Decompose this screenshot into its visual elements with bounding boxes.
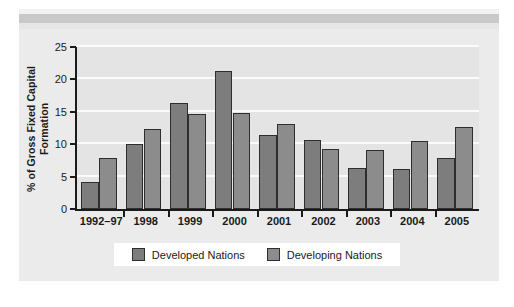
bar-developing-2001 — [277, 124, 295, 209]
bar-developed-2000 — [215, 71, 233, 209]
gridline — [77, 77, 479, 79]
bar-developing-1999 — [188, 114, 206, 209]
bar-developing-2000 — [233, 113, 251, 209]
y-axis-title: % of Gross Fixed Capital Formation — [26, 47, 50, 211]
gridline — [77, 110, 479, 112]
bar-developing-2002 — [322, 149, 340, 209]
x-axis-label: 2001 — [267, 215, 291, 227]
bar-developing-2003 — [366, 150, 384, 209]
legend-label: Developed Nations — [152, 249, 245, 261]
y-tick-label: 25 — [55, 41, 67, 53]
y-axis-title-text: % of Gross Fixed Capital Formation — [25, 47, 51, 211]
bar-developed-2004 — [393, 169, 411, 209]
scan-artifact-band — [19, 14, 499, 23]
bar-developed-2003 — [348, 168, 366, 209]
y-axis-line — [75, 47, 77, 211]
bar-developed-2001 — [259, 135, 277, 209]
y-tick-label: 0 — [61, 203, 67, 215]
bar-developed-199297 — [81, 182, 99, 209]
bar-developed-1998 — [126, 144, 144, 209]
bar-developed-2002 — [304, 140, 322, 209]
legend-label: Developing Nations — [287, 249, 382, 261]
bar-developed-1999 — [170, 103, 188, 209]
x-axis-label: 2004 — [400, 215, 424, 227]
legend-item: Developed Nations — [132, 248, 245, 261]
bar-developing-2005 — [455, 127, 473, 209]
bar-developing-2004 — [411, 141, 429, 209]
y-tick-label: 15 — [55, 106, 67, 118]
x-axis-label: 1998 — [133, 215, 157, 227]
y-tick-label: 5 — [61, 171, 67, 183]
x-axis-label: 2003 — [356, 215, 380, 227]
bar-developing-199297 — [99, 158, 117, 209]
plot-area: 0510152025 — [75, 47, 479, 211]
x-axis-label: 2000 — [222, 215, 246, 227]
bar-developing-1998 — [144, 129, 162, 209]
x-axis-line — [75, 209, 479, 211]
x-axis-label: 1999 — [178, 215, 202, 227]
x-axis-label: 1992–97 — [80, 215, 123, 227]
x-axis-label: 2005 — [445, 215, 469, 227]
legend-item: Developing Nations — [267, 248, 382, 261]
gridline — [77, 45, 479, 47]
chart-page: % of Gross Fixed Capital Formation 05101… — [0, 0, 514, 307]
bar-developed-2005 — [437, 158, 455, 209]
y-tick-label: 20 — [55, 73, 67, 85]
x-axis-label: 2002 — [311, 215, 335, 227]
legend-swatch-developing — [267, 248, 280, 261]
chart-legend: Developed NationsDeveloping Nations — [114, 243, 400, 266]
legend-swatch-developed — [132, 248, 145, 261]
y-tick-label: 10 — [55, 138, 67, 150]
x-axis-labels: 1992–9719981999200020012002200320042005 — [75, 215, 479, 235]
